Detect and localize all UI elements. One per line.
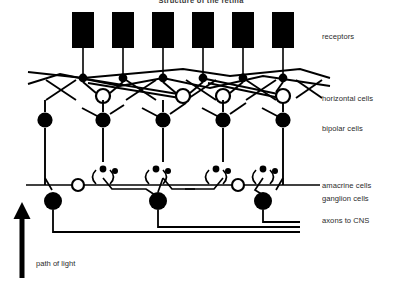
receptor-cell [272, 12, 294, 78]
bipolar-cell [95, 112, 110, 127]
amacrine-cell [232, 179, 244, 191]
horizontal-cell [276, 89, 290, 103]
ganglion-cell [44, 192, 62, 210]
label-path-of-light: path of light [36, 259, 75, 268]
amacrine-synaptic-knobs [100, 166, 278, 174]
receptor-cell [72, 12, 94, 78]
ganglion-layer [44, 192, 300, 232]
bipolar-cell [215, 112, 230, 127]
bipolar-cell [37, 112, 52, 127]
horizontal-cell [176, 89, 190, 103]
receptor-cell [192, 12, 214, 78]
label-bipolar-cells: bipolar cells [322, 124, 363, 133]
receptor-cell [232, 12, 254, 78]
receptor-cell [152, 12, 174, 78]
label-receptors: receptors [322, 32, 354, 41]
label-amacrine-cells: amacrine cells [322, 181, 371, 190]
bipolar-cell [275, 112, 290, 127]
path-of-light-arrow [14, 202, 31, 278]
label-ganglion-cells: ganglion cells [322, 194, 369, 203]
retina-structure-figure: Structure of the retina [0, 0, 402, 291]
label-horizontal-cells: horizontal cells [322, 94, 373, 103]
ganglion-axons [53, 210, 300, 232]
retina-circuit-drawing [0, 0, 402, 291]
label-axons-to-cns: axons to CNS [322, 216, 369, 225]
ganglion-cell [149, 192, 167, 210]
bipolar-cell [155, 112, 170, 127]
amacrine-cell [72, 179, 84, 191]
receptor-cell [112, 12, 134, 78]
ganglion-cells [44, 192, 272, 210]
bipolar-cells [37, 112, 290, 127]
ganglion-cell [254, 192, 272, 210]
